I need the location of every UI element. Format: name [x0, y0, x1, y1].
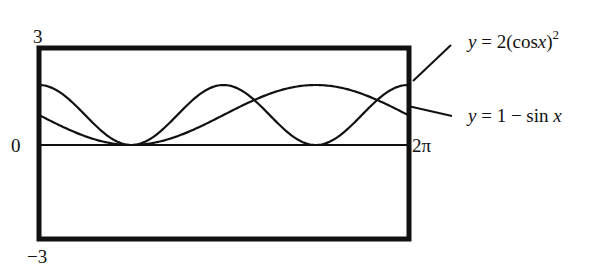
chart: 3 0 2π −3 y = 2(cosx)2 y = 1 − sin x [0, 0, 598, 272]
leader-line-2cos2 [413, 45, 451, 81]
legend-label-2cos2: y = 2(cosx)2 [466, 27, 559, 53]
legend-label-1-minus-sin: y = 1 − sin x [466, 105, 562, 126]
leader-line-1-minus-sin [408, 106, 452, 116]
y-tick-zero: 0 [11, 135, 21, 156]
y-tick-bottom: −3 [27, 246, 47, 267]
curve-1-minus-sin [39, 85, 408, 145]
x-tick-2pi: 2π [412, 135, 432, 156]
plot-frame [39, 48, 409, 239]
y-tick-top: 3 [33, 26, 43, 47]
